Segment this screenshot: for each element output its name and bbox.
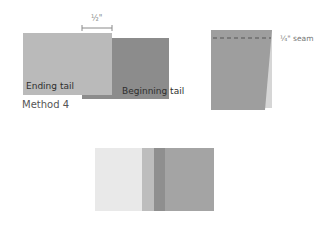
seam-label: ¼" seam	[280, 34, 314, 43]
figure-caption: Method 4	[22, 99, 69, 110]
joined-strip-figure	[95, 148, 214, 211]
ending-tail-label: Ending tail	[26, 81, 74, 91]
folded-binding-icon	[208, 28, 278, 114]
band-seam-allowance-light	[142, 148, 154, 211]
beginning-tail-label: Beginning tail	[122, 86, 184, 96]
band-seam-allowance-dark	[154, 148, 165, 211]
band-beginning-tail-face	[165, 148, 214, 211]
band-ending-tail-face	[95, 148, 142, 211]
dimension-label: ½"	[91, 14, 102, 23]
